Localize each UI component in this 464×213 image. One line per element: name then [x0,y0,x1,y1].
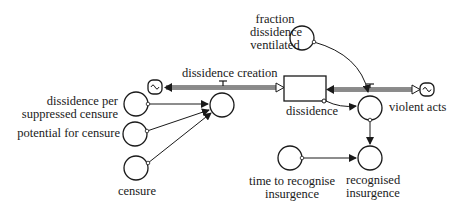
flow-label-dissidence-creation: dissidence creation [182,67,277,80]
label-time-to-recognise-insurgence: time to recognise insurgence [243,175,341,201]
converter-potential-for-censure[interactable] [123,122,147,146]
cloud-icon-right [420,83,434,96]
converter-dissidence-creation[interactable] [210,93,234,117]
label-censure: censure [117,185,157,198]
label-dissidence-per-suppressed-censure: dissidence per suppressed censure [8,95,118,121]
converter-time-to-recognise-insurgence[interactable] [278,146,302,170]
label-recognised-insurgence: recognised insurgence [346,174,396,200]
label-potential-for-censure: potential for censure [4,127,120,140]
label-fraction-dissidence-ventilated: fraction dissidence ventilated [250,13,300,52]
connectors [147,42,370,163]
cloud-icon-left [148,80,162,94]
converter-violent-acts[interactable] [358,96,382,120]
stock-label-dissidence: dissidence [286,105,338,118]
flow-label-violent-acts: violent acts [389,101,446,114]
stock-dissidence[interactable] [284,76,326,101]
converter-recognised-insurgence[interactable] [358,146,382,170]
converter-dissidence-per-suppressed-censure[interactable] [124,92,148,116]
converter-censure[interactable] [124,156,148,180]
flow-pipe-dissidence-creation [164,81,284,92]
flow-pipe-violent-acts [326,84,420,94]
